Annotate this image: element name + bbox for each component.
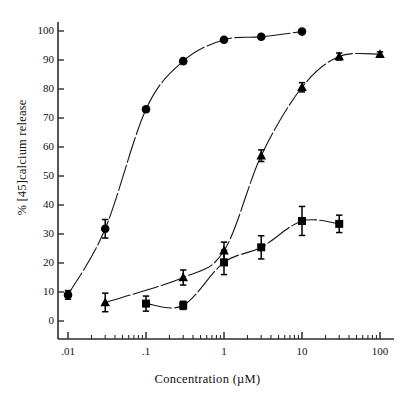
data-point-triangle[interactable]	[178, 273, 188, 282]
series-triangle	[100, 49, 384, 312]
data-point-triangle[interactable]	[334, 52, 344, 61]
y-tick-label: 100	[18, 24, 54, 36]
y-tick-label: 0	[18, 314, 54, 326]
data-point-square[interactable]	[257, 243, 265, 251]
data-point-square[interactable]	[220, 258, 228, 266]
y-tick-label: 20	[18, 256, 54, 268]
y-tick-label: 90	[18, 53, 54, 65]
data-point-triangle[interactable]	[256, 151, 266, 160]
x-axis-title: Concentration (µM)	[0, 372, 415, 387]
y-tick-label: 50	[18, 169, 54, 181]
data-point-circle[interactable]	[64, 291, 73, 300]
x-tick-label: .1	[121, 345, 171, 357]
x-tick-label: 10	[277, 345, 327, 357]
data-point-circle[interactable]	[179, 57, 188, 66]
data-point-circle[interactable]	[142, 105, 151, 114]
data-point-square[interactable]	[335, 220, 343, 228]
data-point-square[interactable]	[179, 301, 187, 309]
data-point-circle[interactable]	[101, 224, 110, 233]
data-point-circle[interactable]	[220, 35, 229, 44]
series-curve	[105, 53, 380, 302]
data-point-square[interactable]	[298, 217, 306, 225]
y-tick-label: 40	[18, 198, 54, 210]
y-tick-label: 10	[18, 285, 54, 297]
data-point-square[interactable]	[142, 300, 150, 308]
y-tick-label: 70	[18, 111, 54, 123]
series-circle	[64, 27, 307, 299]
x-tick-label: 100	[355, 345, 405, 357]
series-square	[142, 206, 343, 311]
series-curve	[146, 220, 339, 308]
x-tick-label: 1	[199, 345, 249, 357]
series-curve	[68, 32, 302, 295]
data-point-circle[interactable]	[298, 27, 307, 36]
data-point-triangle[interactable]	[375, 49, 385, 58]
x-tick-label: .01	[43, 345, 93, 357]
data-point-triangle[interactable]	[297, 82, 307, 91]
chart-figure: % [45]calcium release Concentration (µM)…	[0, 0, 415, 399]
plot-area	[0, 0, 415, 399]
y-tick-label: 30	[18, 227, 54, 239]
data-point-circle[interactable]	[257, 33, 266, 42]
y-tick-label: 80	[18, 82, 54, 94]
y-tick-label: 60	[18, 140, 54, 152]
